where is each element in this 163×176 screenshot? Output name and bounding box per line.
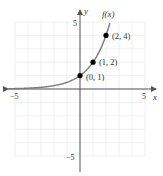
x-tick-neg5: −5 xyxy=(10,92,19,101)
y-axis-label: y xyxy=(83,6,88,16)
data-point xyxy=(90,60,95,65)
y-tick-neg5: −5 xyxy=(66,153,75,162)
x-tick-5: 5 xyxy=(142,92,146,101)
function-label: f(x) xyxy=(102,9,115,19)
point-label-1-2: (1, 2) xyxy=(99,57,118,67)
y-tick-5: 5 xyxy=(73,19,77,28)
point-label-2-4: (2, 4) xyxy=(112,31,131,41)
data-point xyxy=(103,33,108,38)
exponential-graph: y x f(x) 5 −5 −5 5 (0, 1) (1, 2) (2, 4) xyxy=(0,0,163,176)
point-label-0-1: (0, 1) xyxy=(86,72,105,82)
x-axis-label: x xyxy=(152,92,157,102)
data-point xyxy=(77,73,82,78)
